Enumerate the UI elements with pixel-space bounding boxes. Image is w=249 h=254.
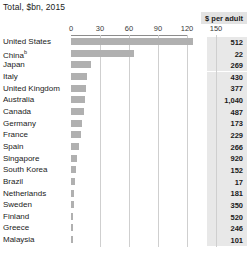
x-tick-label-0: 0 — [69, 24, 73, 33]
table-row: Australia1,040 — [0, 94, 249, 106]
bar — [71, 96, 85, 103]
bar — [71, 38, 193, 45]
row-label-canada: Canada — [3, 107, 31, 116]
row-label-france: France — [3, 130, 28, 139]
chart-title: Total, $bn, 2015 — [3, 2, 65, 12]
bar — [71, 120, 82, 127]
table-row: France229 — [0, 129, 249, 141]
value-column-header: $ per adult — [201, 12, 247, 24]
x-tick-label-120: 120 — [181, 24, 194, 33]
x-tick-label-30: 30 — [96, 24, 104, 33]
x-tick-label-150: 150 — [210, 24, 223, 33]
x-tick-label-60: 60 — [125, 24, 133, 33]
bar — [71, 61, 91, 68]
value-cell: 1,040 — [207, 95, 247, 107]
row-label-greece: Greece — [3, 223, 29, 232]
table-row: Singapore920 — [0, 152, 249, 164]
chart-rows: United States512Chinab22Japan269Italy430… — [0, 36, 249, 246]
table-row: Netherlands181 — [0, 187, 249, 199]
row-label-spain: Spain — [3, 142, 23, 151]
bar — [71, 201, 74, 208]
bar — [71, 190, 74, 197]
bar — [71, 85, 86, 92]
value-cell: 377 — [207, 83, 247, 95]
table-row: Canada487 — [0, 106, 249, 118]
row-label-japan: Japan — [3, 60, 25, 69]
x-tick-label-90: 90 — [154, 24, 162, 33]
bar — [71, 236, 73, 243]
value-cell: 487 — [207, 106, 247, 118]
table-row: Chinab22 — [0, 48, 249, 60]
row-label-australia: Australia — [3, 95, 34, 104]
row-label-china: Chinab — [3, 49, 27, 60]
table-row: South Korea152 — [0, 164, 249, 176]
value-cell: 266 — [207, 141, 247, 153]
value-cell: 152 — [207, 165, 247, 177]
bar — [71, 155, 77, 162]
bar-chart: Total, $bn, 2015 $ per adult 03060901201… — [0, 0, 249, 254]
row-label-brazil: Brazil — [3, 177, 23, 186]
row-label-germany: Germany — [3, 119, 36, 128]
row-label-italy: Italy — [3, 72, 18, 81]
value-cell: 350 — [207, 200, 247, 212]
value-cell: 520 — [207, 211, 247, 223]
bar — [71, 178, 75, 185]
bar — [71, 143, 79, 150]
table-row: Malaysia101 — [0, 234, 249, 246]
table-row: United States512 — [0, 36, 249, 48]
table-row: Finland520 — [0, 211, 249, 223]
value-cell: 101 — [207, 234, 247, 246]
row-label-united-kingdom: United Kingdom — [3, 84, 60, 93]
x-axis-tick-labels: 0306090120150 — [71, 24, 221, 34]
value-cell: 920 — [207, 153, 247, 165]
row-label-malaysia: Malaysia — [3, 235, 35, 244]
row-label-united-states: United States — [3, 37, 51, 46]
value-cell: 430 — [207, 72, 247, 84]
value-cell: 229 — [207, 130, 247, 142]
bar — [71, 50, 134, 57]
value-cell: 173 — [207, 118, 247, 130]
bar — [71, 131, 81, 138]
table-row: Greece246 — [0, 222, 249, 234]
table-row: United Kingdom377 — [0, 83, 249, 95]
row-label-singapore: Singapore — [3, 154, 39, 163]
bar — [71, 224, 73, 231]
bar — [71, 73, 87, 80]
bar — [71, 213, 73, 220]
bar — [71, 108, 84, 115]
value-cell: 181 — [207, 188, 247, 200]
row-label-sweden: Sweden — [3, 200, 32, 209]
table-row: Japan269 — [0, 59, 249, 71]
table-row: Spain266 — [0, 141, 249, 153]
row-label-finland: Finland — [3, 212, 29, 221]
row-label-south-korea: South Korea — [3, 165, 47, 174]
value-cell: 512 — [207, 37, 247, 49]
bar — [71, 166, 76, 173]
value-cell: 269 — [207, 60, 247, 72]
footnote-marker: b — [24, 49, 27, 55]
table-row: Brazil17 — [0, 176, 249, 188]
value-cell: 22 — [207, 48, 247, 60]
table-row: Germany173 — [0, 117, 249, 129]
table-row: Italy430 — [0, 71, 249, 83]
value-cell: 17 — [207, 176, 247, 188]
gridline-150 — [216, 35, 217, 247]
value-cell: 246 — [207, 223, 247, 235]
table-row: Sweden350 — [0, 199, 249, 211]
row-label-netherlands: Netherlands — [3, 189, 46, 198]
